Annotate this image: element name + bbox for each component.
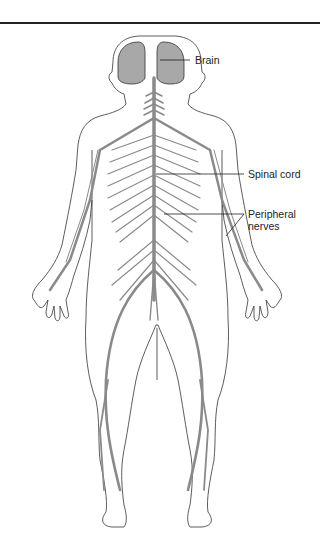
body-outline [32,36,281,527]
label-spinal-cord: Spinal cord [248,168,301,180]
label-brain: Brain [195,54,220,66]
label-peripheral-nerves-line1: Peripheral [248,208,296,220]
nervous-system [50,78,262,490]
brain-shape [118,42,184,84]
human-body-figure [0,0,320,541]
label-peripheral-nerves-line2: nerves [248,220,280,232]
